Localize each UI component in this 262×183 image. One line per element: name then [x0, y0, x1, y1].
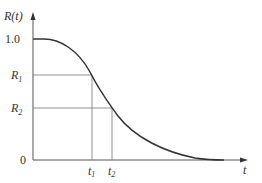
- x-tick-t1: t1: [88, 164, 95, 179]
- y-tick-0: 0: [20, 153, 26, 167]
- y-axis-arrow-icon: [31, 12, 36, 20]
- y-tick-r2: R2: [10, 101, 22, 117]
- reliability-chart: R(t) 1.0 R1 R2 0 t1 t2 t: [0, 0, 262, 183]
- y-axis-label: R(t): [3, 9, 23, 23]
- x-axis-label: t: [243, 163, 247, 177]
- x-axis-arrow-icon: [240, 158, 248, 163]
- x-tick-t2: t2: [108, 164, 115, 179]
- reliability-curve: [33, 39, 224, 160]
- y-tick-1: 1.0: [5, 32, 20, 46]
- y-tick-r1: R1: [10, 68, 22, 84]
